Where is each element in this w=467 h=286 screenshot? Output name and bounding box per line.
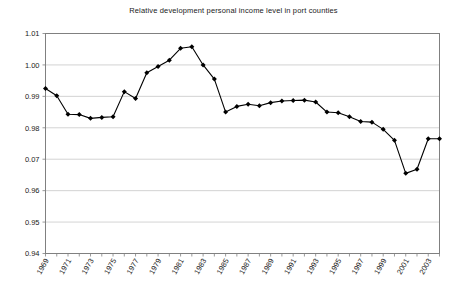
data-point-marker xyxy=(291,98,296,103)
y-tick-label: 0.98 xyxy=(25,124,40,133)
y-tick-label: 0.95 xyxy=(25,218,40,227)
data-point-marker xyxy=(234,104,239,109)
data-point-marker xyxy=(257,103,262,108)
y-tick-label: 0.96 xyxy=(25,186,40,195)
x-tick-label: 1981 xyxy=(170,257,186,276)
x-tick-label: 1991 xyxy=(282,257,298,276)
data-point-marker xyxy=(358,119,363,124)
x-tick-label: 2001 xyxy=(395,257,411,276)
y-tick-label: 0.94 xyxy=(25,249,40,258)
data-point-marker xyxy=(336,110,341,115)
data-point-marker xyxy=(66,112,71,117)
data-point-marker xyxy=(414,167,419,172)
x-tick-label: 1973 xyxy=(80,257,96,276)
x-axis-tick-labels: 1969197119731975197719791981198319851987… xyxy=(35,257,434,276)
x-tick-label: 1997 xyxy=(350,257,366,276)
data-series-markers xyxy=(43,44,442,176)
series-line xyxy=(46,47,440,174)
data-point-marker xyxy=(426,136,431,141)
x-tick-label: 1977 xyxy=(125,257,141,276)
y-tick-label: 0.99 xyxy=(25,92,40,101)
x-tick-label: 1993 xyxy=(305,257,321,276)
plot-border xyxy=(46,34,440,254)
data-point-marker xyxy=(111,114,116,119)
y-tick-label: 1.01 xyxy=(25,29,40,38)
x-tick-label: 1969 xyxy=(35,257,51,276)
y-tick-label: 0.07 xyxy=(25,155,40,164)
gridlines-group xyxy=(46,65,440,222)
x-tick-label: 1979 xyxy=(147,257,163,276)
x-tick-label: 1995 xyxy=(327,257,343,276)
y-tick-label: 1.00 xyxy=(25,61,40,70)
data-point-marker xyxy=(223,110,228,115)
x-tick-label: 1999 xyxy=(372,257,388,276)
data-point-marker xyxy=(246,102,251,107)
data-point-marker xyxy=(403,171,408,176)
plot-frame xyxy=(46,34,440,254)
x-tick-label: 1985 xyxy=(215,257,231,276)
y-axis-tick-labels: 1.011.000.990.980.070.960.950.94 xyxy=(25,29,40,258)
chart-container: Relative development personal income lev… xyxy=(0,0,467,286)
line-chart-plot: 1.011.000.990.980.070.960.950.94 1969197… xyxy=(0,0,467,286)
data-point-marker xyxy=(437,136,442,141)
data-point-marker xyxy=(77,112,82,117)
data-point-marker xyxy=(189,44,194,49)
x-tick-label: 1983 xyxy=(192,257,208,276)
data-series-line xyxy=(46,47,440,174)
data-point-marker xyxy=(302,98,307,103)
data-point-marker xyxy=(144,70,149,75)
data-point-marker xyxy=(133,96,138,101)
x-tick-label: 1971 xyxy=(57,257,73,276)
x-tick-label: 1989 xyxy=(260,257,276,276)
data-point-marker xyxy=(99,115,104,120)
data-point-marker xyxy=(347,114,352,119)
data-point-marker xyxy=(122,89,127,94)
x-tick-label: 1987 xyxy=(237,257,253,276)
data-point-marker xyxy=(268,100,273,105)
data-point-marker xyxy=(88,116,93,121)
x-tick-label: 1975 xyxy=(102,257,118,276)
data-point-marker xyxy=(279,99,284,104)
x-tick-label: 2003 xyxy=(417,257,433,276)
